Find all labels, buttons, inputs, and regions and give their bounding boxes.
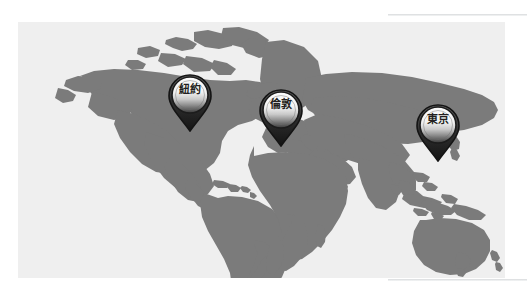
map-pin-icon [258, 89, 304, 147]
screenshot-root: 紐約 倫敦 東京 [0, 0, 527, 293]
map-pin-icon [167, 74, 213, 132]
map-pin-icon [415, 104, 461, 162]
map-pin-tokyo[interactable]: 東京 [415, 104, 461, 162]
bottom-rule-divider [388, 279, 527, 281]
top-rule-divider [388, 14, 527, 16]
world-map-panel: 紐約 倫敦 東京 [18, 22, 505, 278]
map-pin-new-york[interactable]: 紐約 [167, 74, 213, 132]
map-pin-london[interactable]: 倫敦 [258, 89, 304, 147]
